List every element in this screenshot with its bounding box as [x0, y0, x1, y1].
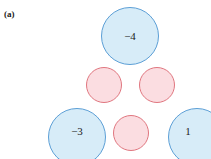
node-blue-bottom-right-label: 1	[185, 126, 191, 137]
node-blue-bottom-right[interactable]: 1	[168, 108, 211, 159]
node-pink-mid-right[interactable]	[139, 67, 175, 103]
node-pink-bottom-mid[interactable]	[113, 115, 149, 151]
node-blue-bottom-left-label: −3	[71, 126, 83, 137]
node-pink-mid-left[interactable]	[86, 67, 122, 103]
node-blue-bottom-left[interactable]: −3	[48, 108, 106, 159]
node-blue-top[interactable]: −4	[101, 7, 159, 65]
figure-panel: (a) −4 −3 1	[0, 0, 211, 159]
panel-label: (a)	[4, 9, 15, 19]
node-blue-top-label: −4	[124, 31, 136, 42]
